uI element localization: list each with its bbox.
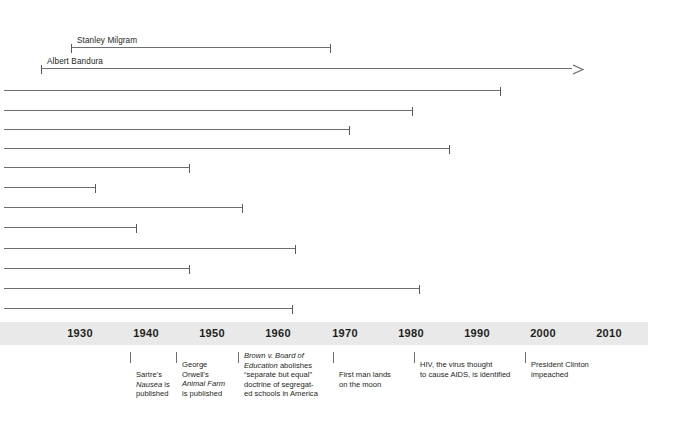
bar-end-cap bbox=[189, 164, 190, 173]
event-line: George bbox=[182, 360, 207, 369]
bar-end-cap bbox=[292, 305, 293, 314]
bar-end-cap bbox=[136, 224, 137, 233]
event-line: is published bbox=[182, 389, 222, 398]
bar-label-milgram: Stanley Milgram bbox=[77, 36, 137, 45]
event-line: impeached bbox=[531, 370, 568, 379]
event-line: Orwell's bbox=[182, 370, 209, 379]
bar-start-cap bbox=[71, 44, 72, 53]
event-line: to cause AIDS, is identified bbox=[420, 370, 510, 379]
event-line: abolishes bbox=[278, 361, 312, 370]
event-tick bbox=[414, 352, 415, 363]
timeline-bar bbox=[4, 167, 190, 168]
bar-end-cap bbox=[449, 145, 450, 154]
event-line-italic: Brown v. Board of bbox=[244, 351, 304, 360]
bar-end-cap bbox=[189, 265, 190, 274]
event-line-italic: Nausea bbox=[136, 380, 162, 389]
event-line: HIV, the virus thought bbox=[420, 360, 492, 369]
event-tick bbox=[130, 352, 131, 363]
axis-year-1990: 1990 bbox=[464, 327, 490, 339]
bar-end-cap bbox=[412, 107, 413, 116]
event-text-brown: Brown v. Board of Education abolishes “s… bbox=[244, 351, 318, 399]
event-tick bbox=[176, 352, 177, 363]
bar-end-cap bbox=[419, 285, 420, 294]
event-line: ed schools in America bbox=[244, 389, 318, 398]
event-line: is bbox=[162, 380, 170, 389]
event-text-orwell: George Orwell's Animal Farm is published bbox=[182, 360, 225, 398]
event-tick bbox=[333, 352, 334, 363]
event-text-hiv: HIV, the virus thought to cause AIDS, is… bbox=[420, 360, 510, 379]
timeline-bar bbox=[4, 227, 137, 228]
bar-end-cap bbox=[95, 184, 96, 193]
event-text-clinton: President Clinton impeached bbox=[531, 360, 589, 379]
bar-end-cap bbox=[349, 126, 350, 135]
timeline-bar bbox=[4, 90, 501, 91]
axis-year-1960: 1960 bbox=[265, 327, 291, 339]
bar-end-cap bbox=[500, 87, 501, 96]
event-line: Sartre's bbox=[136, 370, 162, 379]
timeline-bar bbox=[4, 148, 450, 149]
axis-year-2000: 2000 bbox=[530, 327, 556, 339]
bar-start-cap bbox=[41, 65, 42, 74]
timeline-bar bbox=[4, 187, 96, 188]
event-tick bbox=[525, 352, 526, 363]
bar-end-cap bbox=[330, 44, 331, 53]
event-line: published bbox=[136, 389, 169, 398]
event-line: “separate but equal” bbox=[244, 370, 312, 379]
axis-year-1980: 1980 bbox=[398, 327, 424, 339]
timeline-chart: Stanley Milgram Albert Bandura bbox=[0, 0, 690, 430]
axis-year-1940: 1940 bbox=[133, 327, 159, 339]
timeline-bar bbox=[4, 207, 243, 208]
axis-year-1930: 1930 bbox=[67, 327, 93, 339]
timeline-bar bbox=[4, 110, 413, 111]
event-line: on the moon bbox=[339, 380, 381, 389]
axis-year-1950: 1950 bbox=[199, 327, 225, 339]
event-line: First man lands bbox=[339, 370, 391, 379]
year-axis-band: 1930 1940 1950 1960 1970 1980 1990 2000 … bbox=[0, 322, 648, 345]
bar-end-cap bbox=[295, 245, 296, 254]
bar-label-bandura: Albert Bandura bbox=[47, 57, 103, 66]
event-line-italic: Education bbox=[244, 361, 278, 370]
axis-year-1970: 1970 bbox=[332, 327, 358, 339]
timeline-bar-bandura: Albert Bandura bbox=[41, 68, 572, 69]
timeline-bar bbox=[4, 268, 190, 269]
event-line: doctrine of segregat- bbox=[244, 380, 314, 389]
event-tick bbox=[238, 352, 239, 363]
timeline-bar bbox=[4, 288, 420, 289]
event-text-moon: First man lands on the moon bbox=[339, 370, 391, 389]
event-line: President Clinton bbox=[531, 360, 589, 369]
axis-year-2010: 2010 bbox=[596, 327, 622, 339]
timeline-bar bbox=[4, 129, 350, 130]
event-text-sartre: Sartre's Nausea is published bbox=[136, 370, 170, 399]
timeline-bar-milgram: Stanley Milgram bbox=[71, 47, 331, 48]
timeline-bar bbox=[4, 248, 296, 249]
event-line-italic: Animal Farm bbox=[182, 379, 225, 388]
timeline-bar bbox=[4, 308, 293, 309]
bar-end-cap bbox=[242, 204, 243, 213]
